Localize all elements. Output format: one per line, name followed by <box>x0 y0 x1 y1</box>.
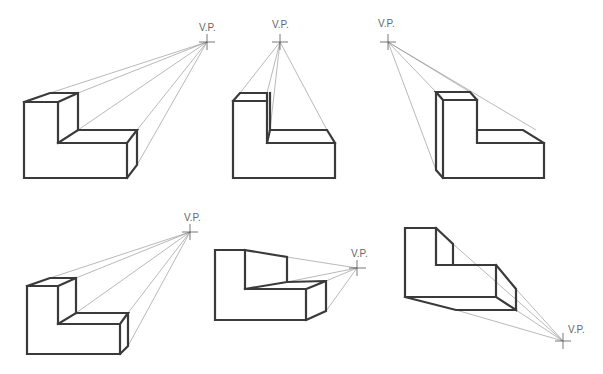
vp-label: V.P. <box>199 22 216 33</box>
projection-lines <box>287 257 357 311</box>
vanishing-point: V.P. <box>349 248 368 276</box>
perspective-diagram: V.P. V.P. <box>0 0 603 374</box>
l-block <box>436 92 544 178</box>
l-block <box>24 93 137 178</box>
figure-3: V.P. <box>378 18 544 178</box>
vp-label: V.P. <box>351 248 368 259</box>
projection-lines <box>240 42 327 130</box>
l-block <box>405 228 516 310</box>
vp-label: V.P. <box>272 19 289 30</box>
projection-lines <box>388 42 536 170</box>
l-block <box>233 93 335 178</box>
vanishing-point: V.P. <box>272 19 289 50</box>
vp-label: V.P. <box>568 324 585 335</box>
vp-label: V.P. <box>378 18 395 29</box>
figure-5: V.P. <box>215 248 368 320</box>
vanishing-point: V.P. <box>555 324 585 349</box>
l-block <box>27 278 128 354</box>
projection-lines <box>50 42 207 165</box>
figure-1: V.P. <box>24 22 216 178</box>
projection-lines <box>453 244 563 341</box>
vp-label: V.P. <box>184 212 201 223</box>
figure-2: V.P. <box>233 19 335 178</box>
figure-6: V.P. <box>405 228 585 349</box>
figure-4: V.P. <box>27 212 201 354</box>
